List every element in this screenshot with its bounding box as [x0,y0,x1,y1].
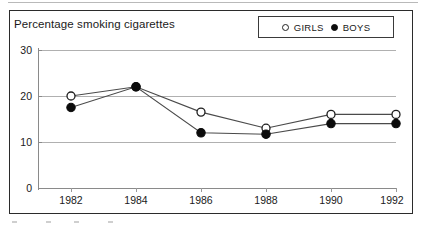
y-tick-label-10: 10 [20,136,32,148]
x-tick-mark-1986 [201,188,202,192]
y-tick-label-0: 0 [26,182,32,194]
y-tick-10: 10 [10,142,32,143]
gridline-20 [38,96,396,97]
x-tick-mark-1982 [71,188,72,192]
y-tick-mark-10 [38,142,42,143]
y-tick-20: 20 [10,96,32,97]
y-tick-mark-30 [38,50,42,51]
chart-legend: GIRLS BOYS [258,16,394,38]
x-tick-label-1988: 1988 [254,194,277,206]
y-tick-30: 30 [10,50,32,51]
plot-area [38,50,396,188]
scan-artifact [12,221,17,223]
legend-label-girls: GIRLS [294,22,324,33]
y-tick-mark-20 [38,96,42,97]
y-tick-mark-0 [38,188,42,189]
scan-artifact [46,221,51,223]
x-axis-line [38,188,397,189]
legend-label-boys: BOYS [343,22,371,33]
page-top-rule [8,2,418,3]
filled-circle-icon [331,24,338,31]
legend-entry-boys: BOYS [331,22,371,33]
chart-title: Percentage smoking cigarettes [14,18,175,30]
x-tick-mark-1988 [266,188,267,192]
y-axis-line [38,48,39,190]
open-circle-icon [282,24,289,31]
x-tick-mark-1992 [396,188,397,192]
y-tick-label-30: 30 [20,44,32,56]
x-tick-mark-1990 [331,188,332,192]
x-tick-label-1992: 1992 [380,194,403,206]
x-tick-label-1986: 1986 [189,194,212,206]
x-tick-label-1984: 1984 [124,194,147,206]
x-tick-mark-1984 [136,188,137,192]
chart-page: Percentage smoking cigarettes GIRLS BOYS… [0,0,424,227]
y-tick-label-20: 20 [20,90,32,102]
x-tick-label-1990: 1990 [319,194,342,206]
gridline-30 [38,50,396,51]
x-tick-label-1982: 1982 [59,194,82,206]
scan-artifact [108,221,113,223]
scan-artifact [74,221,79,223]
legend-entry-girls: GIRLS [282,22,324,33]
y-tick-0: 0 [10,188,32,189]
gridline-10 [38,142,396,143]
